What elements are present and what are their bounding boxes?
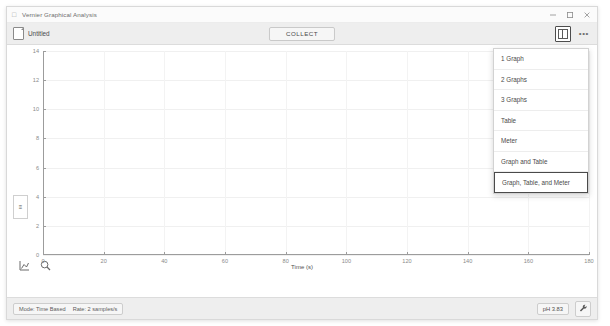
graph-tools-icon[interactable]	[19, 260, 30, 271]
y-tick-label: 4	[36, 194, 43, 200]
window-title: Vernier Graphical Analysis	[22, 11, 97, 18]
y-tick-label: 10	[33, 106, 43, 112]
menu-item-3-graphs[interactable]: 3 Graphs	[494, 90, 588, 111]
menu-item-2-graphs[interactable]: 2 Graphs	[494, 70, 588, 91]
x-axis-label: Time (s)	[7, 264, 597, 270]
y-tick-label: 6	[36, 165, 43, 171]
document-button[interactable]: Untitled	[13, 27, 50, 40]
toolbar-right: •••	[555, 26, 591, 42]
y-tick-label: 14	[33, 48, 43, 54]
app-logo-icon: □	[12, 11, 19, 18]
x-tick-label: 60	[222, 255, 228, 264]
layout-glyph	[558, 29, 568, 39]
x-tick-label: 160	[524, 255, 533, 264]
x-tick-label: 140	[463, 255, 472, 264]
mode-label: Mode: Time Based	[19, 306, 66, 312]
collect-area: COLLECT	[269, 27, 335, 41]
minimize-button[interactable]	[544, 7, 561, 22]
status-bar-right: pH 3.83	[537, 301, 591, 317]
layout-dropdown-menu: 1 Graph 2 Graphs 3 Graphs Table Meter Gr…	[493, 48, 589, 194]
sensor-reading-meter[interactable]: pH 3.83	[537, 303, 569, 315]
menu-item-table[interactable]: Table	[494, 111, 588, 132]
y-tick-label: 2	[36, 223, 43, 229]
x-tick-label: 80	[283, 255, 289, 264]
graph-tool-bar	[19, 260, 51, 271]
document-name: Untitled	[28, 30, 50, 37]
document-icon	[13, 27, 24, 40]
wrench-icon[interactable]	[575, 301, 591, 317]
menu-item-graph-table-and-meter[interactable]: Graph, Table, and Meter	[494, 172, 588, 193]
status-bar: Mode: Time Based Rate: 2 samples/s pH 3.…	[7, 297, 597, 319]
window-controls	[544, 7, 595, 22]
application-window: □ Vernier Graphical Analysis Untitled CO…	[6, 6, 598, 320]
x-tick-label: 40	[161, 255, 167, 264]
layout-panels-icon[interactable]	[555, 26, 571, 42]
title-bar-left: □ Vernier Graphical Analysis	[12, 11, 97, 18]
x-tick-label: 100	[342, 255, 351, 264]
collect-button[interactable]: COLLECT	[269, 27, 335, 41]
menu-item-1-graph[interactable]: 1 Graph	[494, 49, 588, 70]
magnifier-icon[interactable]	[40, 260, 51, 271]
menu-item-graph-and-table[interactable]: Graph and Table	[494, 152, 588, 173]
x-tick-label: 180	[584, 255, 593, 264]
x-tick-label: 20	[101, 255, 107, 264]
menu-item-meter[interactable]: Meter	[494, 131, 588, 152]
more-options-icon[interactable]: •••	[577, 30, 591, 38]
rate-label: Rate: 2 samples/s	[73, 306, 118, 312]
y-tick-label: 12	[33, 77, 43, 83]
main-toolbar: Untitled COLLECT •••	[7, 23, 597, 45]
collection-settings-button[interactable]: Mode: Time Based Rate: 2 samples/s	[13, 303, 123, 315]
y-axis-selector-button[interactable]: ≡	[13, 195, 28, 219]
y-tick-label: 8	[36, 135, 43, 141]
title-bar: □ Vernier Graphical Analysis	[7, 7, 597, 23]
maximize-button[interactable]	[561, 7, 578, 22]
content-area: ≡ 14 12 10 8 6 4 2 0	[7, 45, 597, 297]
close-button[interactable]	[578, 7, 595, 22]
x-tick-label: 120	[402, 255, 411, 264]
